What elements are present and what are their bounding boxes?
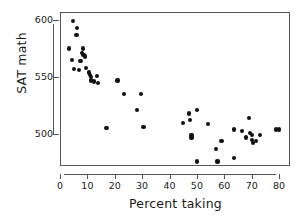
data-point <box>96 81 100 85</box>
data-point <box>122 92 126 96</box>
x-tick-label: 30 <box>132 181 152 191</box>
x-tick-label: 80 <box>269 181 289 191</box>
y-tick-label: 600 <box>22 15 53 25</box>
data-point <box>232 127 236 131</box>
data-point <box>84 66 88 70</box>
y-tick-label: 500 <box>22 129 53 139</box>
data-point <box>83 54 87 58</box>
x-tick <box>224 174 225 179</box>
data-point <box>104 126 108 130</box>
data-point <box>187 111 191 115</box>
data-point <box>78 59 82 63</box>
data-point <box>254 139 258 143</box>
plot-area <box>60 12 290 166</box>
data-point <box>277 127 281 131</box>
data-point <box>72 67 76 71</box>
x-tick-label: 70 <box>242 181 262 191</box>
x-tick-label: 0 <box>50 181 70 191</box>
y-tick-label-text: 600 <box>29 15 53 25</box>
data-point <box>95 74 99 78</box>
x-tick <box>142 174 143 179</box>
data-point <box>74 33 78 37</box>
data-point <box>115 78 119 82</box>
y-tick-label-text: 550 <box>29 72 53 82</box>
data-point <box>195 108 199 112</box>
data-point <box>189 135 193 139</box>
data-point <box>215 159 219 163</box>
data-point <box>206 122 210 126</box>
data-point <box>67 46 71 50</box>
y-tick <box>53 134 59 135</box>
data-point <box>75 26 79 30</box>
x-tick-label: 20 <box>105 181 125 191</box>
x-tick <box>252 174 253 179</box>
data-point <box>81 46 85 50</box>
x-tick-label: 50 <box>187 181 207 191</box>
data-point <box>219 139 223 143</box>
data-point <box>188 118 192 122</box>
scatter-plot: SAT math 500550600 01020304050607080 Per… <box>0 0 306 220</box>
y-tick-label-text: 500 <box>29 129 53 139</box>
x-tick <box>197 174 198 179</box>
y-tick-label: 550 <box>22 72 53 82</box>
data-point <box>195 159 199 163</box>
y-tick <box>53 20 59 21</box>
data-point <box>240 129 244 133</box>
data-point <box>71 19 75 23</box>
y-tick <box>53 77 59 78</box>
x-axis-title: Percent taking <box>60 196 291 211</box>
data-point <box>70 58 74 62</box>
x-tick <box>87 174 88 179</box>
x-tick <box>279 174 280 179</box>
x-tick-label: 60 <box>214 181 234 191</box>
x-tick-label: 40 <box>160 181 180 191</box>
data-point <box>135 108 139 112</box>
x-tick <box>60 174 61 179</box>
data-point <box>247 116 251 120</box>
x-tick <box>115 174 116 179</box>
x-tick-label: 10 <box>77 181 97 191</box>
data-point <box>139 92 143 96</box>
data-point <box>258 133 262 137</box>
data-point <box>244 135 248 139</box>
data-point <box>232 156 236 160</box>
data-point <box>250 133 254 137</box>
data-point <box>214 147 218 151</box>
y-axis-line <box>53 24 54 134</box>
x-tick <box>170 174 171 179</box>
data-point <box>77 68 81 72</box>
data-point <box>181 121 185 125</box>
data-point <box>141 125 145 129</box>
